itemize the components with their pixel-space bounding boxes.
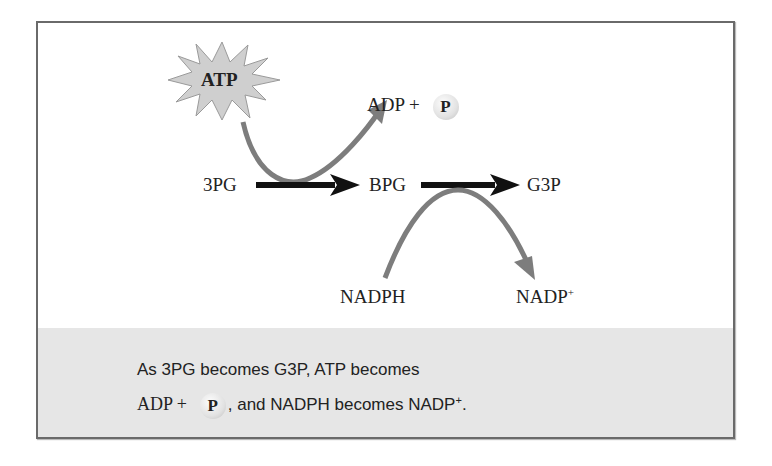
g3p-label: G3P [527, 174, 561, 196]
caption-line-2: ADP + P, and NADPH becomes NADP+. [137, 393, 467, 419]
nadp-superscript: + [568, 286, 574, 298]
nadp-label: NADP+ [516, 286, 574, 308]
caption-mid: , and NADPH becomes NADP [228, 395, 456, 414]
curved-arrowhead-icon [514, 256, 535, 280]
nadp-text: NADP [516, 286, 568, 307]
phosphate-icon: P [433, 94, 459, 120]
phosphate-icon: P [200, 393, 226, 419]
nadph-label: NADPH [340, 286, 405, 308]
caption-end: . [462, 395, 467, 414]
adp-label: ADP + P [367, 94, 459, 120]
adp-text: ADP + [367, 94, 420, 115]
bpg-label: BPG [369, 174, 406, 196]
atp-label: ATP [201, 69, 238, 91]
caption-line-1: As 3PG becomes G3P, ATP becomes [137, 360, 420, 380]
atp-to-adp-curved-arrow [243, 110, 380, 182]
nadph-to-nadp-curved-arrow [385, 190, 527, 278]
caption-adp: ADP + [137, 394, 187, 414]
3pg-label: 3PG [203, 174, 237, 196]
